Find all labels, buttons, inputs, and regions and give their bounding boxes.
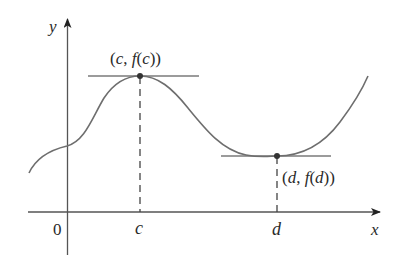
tick-label-d: d [272, 219, 282, 239]
max-point [137, 73, 143, 79]
min-point-label: (d, f(d)) [282, 168, 335, 187]
max-point-label: (c, f(c)) [110, 49, 161, 68]
extrema-diagram: y x 0 c d (c, f(c)) (d, f(d)) [0, 0, 401, 272]
y-axis-label: y [47, 17, 57, 36]
min-point [274, 153, 280, 159]
tick-label-c: c [135, 218, 143, 238]
x-axis-label: x [370, 220, 379, 239]
diagram-canvas: y x 0 c d (c, f(c)) (d, f(d)) [0, 0, 401, 272]
origin-label: 0 [53, 220, 62, 239]
function-curve [29, 76, 368, 173]
